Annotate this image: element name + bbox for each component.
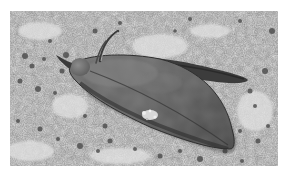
moth-head [70, 58, 90, 76]
photo-canvas [10, 11, 278, 166]
moth-photo: Grayscale photograph of a moth resting o… [10, 11, 278, 166]
